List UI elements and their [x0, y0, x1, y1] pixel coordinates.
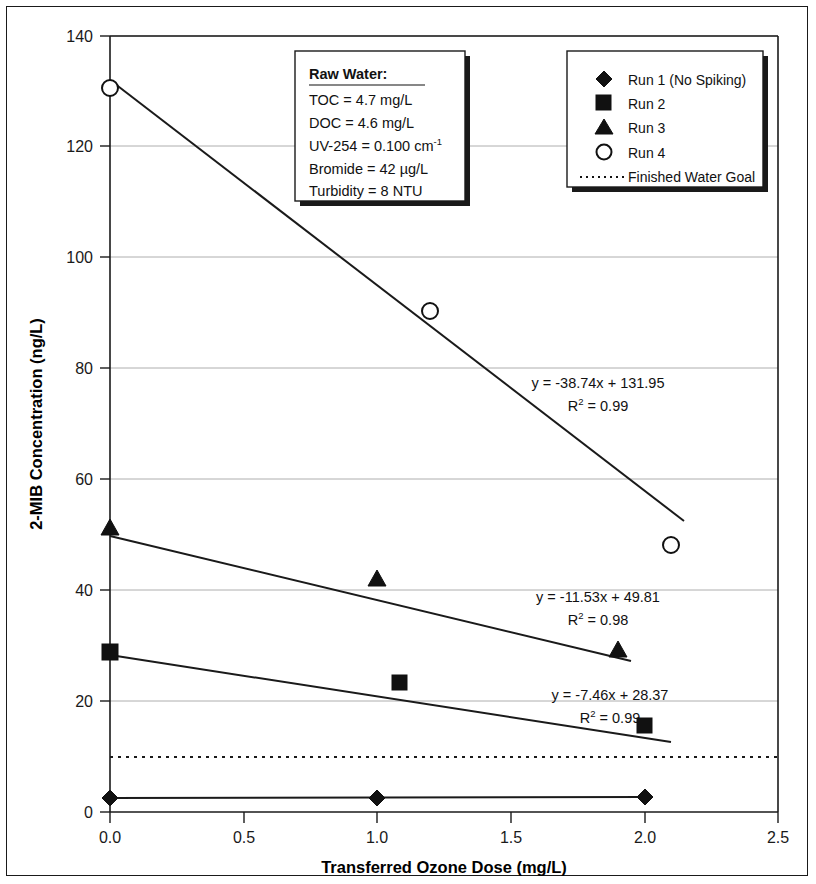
data-point-run1-2 [637, 789, 653, 805]
info-box-title: Raw Water: [309, 66, 387, 82]
info-line-1-pre: DOC = 4.6 mg/L [309, 115, 414, 131]
y-tick-label-140: 140 [66, 28, 93, 45]
info-line-4-pre: Turbidity = 8 NTU [309, 183, 422, 199]
x-axis-title: Transferred Ozone Dose (mg/L) [321, 858, 567, 876]
data-point-run2-0 [102, 644, 118, 660]
legend-item-run-4[interactable]: Run 4 [597, 145, 666, 162]
info-line-2-sup: -1 [434, 136, 442, 147]
eq-run4-line1: y = -38.74x + 131.95 [531, 375, 664, 391]
y-axis-title: 2-MIB Concentration (ng/L) [27, 318, 45, 530]
info-box-line-1: DOC = 4.6 mg/L [309, 115, 414, 131]
annotation-eq-run-4: y = -38.74x + 131.95 R2 = 0.99 [531, 375, 664, 414]
x-tick-label-1.0: 1.0 [366, 829, 388, 846]
legend-label-run-2: Run 2 [628, 96, 666, 112]
data-point-run3-1 [368, 570, 386, 586]
eq-run4-r: R [568, 398, 578, 414]
eq-run2-r: R [580, 710, 590, 726]
eq-run3-line1: y = -11.53x + 49.81 [536, 589, 660, 605]
legend-label-run-1: Run 1 (No Spiking) [628, 72, 746, 88]
y-tick-label-0: 0 [84, 804, 93, 821]
y-tick-label-40: 40 [75, 582, 93, 599]
x-tick-label-1.5: 1.5 [500, 829, 522, 846]
y-tick-label-20: 20 [75, 693, 93, 710]
data-point-run3-2 [609, 641, 627, 657]
y-tick-label-100: 100 [66, 249, 93, 266]
data-point-run3-0 [101, 519, 119, 535]
circle-open-icon [597, 145, 612, 160]
eq-run4-val: = 0.99 [584, 398, 629, 414]
data-point-run1-0 [102, 790, 118, 806]
eq-run2-line1: y = -7.46x + 28.37 [552, 687, 669, 703]
annotation-eq-run-3: y = -11.53x + 49.81 R2 = 0.98 [536, 589, 660, 628]
eq-run3-val: = 0.98 [584, 612, 629, 628]
data-point-run4-0 [102, 80, 118, 96]
x-axis-ticks [110, 812, 778, 823]
info-line-0-pre: TOC = 4.7 mg/L [309, 92, 412, 108]
info-box-line-4: Turbidity = 8 NTU [309, 183, 422, 199]
y-tick-label-80: 80 [75, 360, 93, 377]
info-box-line-3: Bromide = 42 µg/L [309, 161, 428, 177]
legend-label-run-3: Run 3 [628, 120, 666, 136]
legend-item-run-3[interactable]: Run 3 [595, 119, 666, 136]
y-axis-tick-labels: 140 120 100 80 60 40 20 0 [66, 28, 93, 821]
x-tick-label-2.5: 2.5 [767, 829, 789, 846]
y-tick-label-120: 120 [66, 138, 93, 155]
eq-run3-line2: R2 = 0.98 [568, 610, 629, 628]
info-box-line-0: TOC = 4.7 mg/L [309, 92, 412, 108]
raw-water-info-box: Raw Water: TOC = 4.7 mg/L DOC = 4.6 mg/L… [295, 51, 470, 206]
series-run-1 [102, 789, 653, 806]
y-axis-ticks [100, 36, 110, 812]
info-line-2-pre: UV-254 = 0.100 cm [309, 138, 434, 154]
legend-label-run-4: Run 4 [628, 145, 666, 161]
x-tick-label-0.5: 0.5 [233, 829, 255, 846]
data-point-run4-2 [663, 537, 679, 553]
eq-run3-r: R [568, 612, 578, 628]
chart-2mib-vs-ozone-dose: 140 120 100 80 60 40 20 0 0.0 0.5 1.0 1.… [0, 0, 816, 884]
x-axis-tick-labels: 0.0 0.5 1.0 1.5 2.0 2.5 [99, 829, 789, 846]
info-box-line-2: UV-254 = 0.100 cm-1 [309, 136, 442, 154]
data-point-run1-1 [369, 790, 385, 806]
data-point-run4-1 [422, 303, 438, 319]
data-point-run2-1 [392, 675, 407, 690]
eq-run2-line2: R2 = 0.99 [580, 708, 641, 726]
legend: Run 1 (No Spiking) Run 2 Run 3 Run 4 Fin… [567, 51, 768, 192]
eq-run4-line2: R2 = 0.99 [568, 396, 629, 414]
legend-item-run-2[interactable]: Run 2 [596, 95, 666, 112]
x-tick-label-2.0: 2.0 [634, 829, 656, 846]
legend-label-finished-water-goal: Finished Water Goal [628, 169, 755, 185]
eq-run2-val: = 0.99 [596, 710, 641, 726]
info-line-3-pre: Bromide = 42 µg/L [309, 161, 428, 177]
y-tick-label-60: 60 [75, 471, 93, 488]
x-tick-label-0.0: 0.0 [99, 829, 121, 846]
square-icon [596, 95, 611, 110]
